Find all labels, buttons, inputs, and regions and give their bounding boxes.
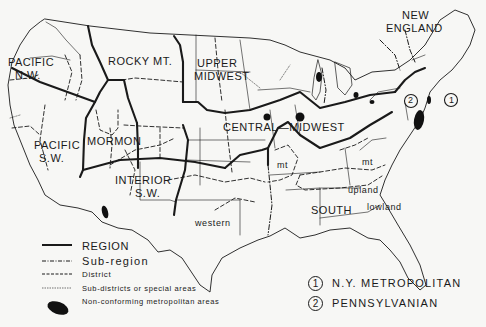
legend-label: District [82, 270, 111, 279]
regional-map: PACIFIC N.W. ROCKY MT. UPPER MIDWEST NEW… [0, 0, 486, 327]
number-circle-icon: 2 [308, 296, 323, 311]
legend-label: Sub-districts or special areas [82, 284, 196, 293]
label-pacific-nw: PACIFIC N.W. [8, 57, 54, 81]
label-dash: — [278, 121, 290, 133]
label-line: PACIFIC [34, 140, 80, 151]
metro-legend-item-1: 1 N.Y. METROPOLITAN [308, 273, 461, 293]
label-interior-sw: INTERIOR S.W. [115, 175, 172, 199]
metro-legend: 1 N.Y. METROPOLITAN 2 PENNSYLVANIAN [308, 273, 461, 313]
label-upper-midwest: UPPER MIDWEST [194, 58, 249, 82]
label-lowland: lowland [367, 203, 402, 212]
legend-item-sub-districts: Sub-districts or special areas [82, 284, 196, 293]
label-south: SOUTH [311, 205, 352, 216]
legend-label: Sub-region [82, 255, 149, 267]
label-new-england: NEW ENGLAND [386, 10, 443, 34]
label-line: INTERIOR [115, 175, 172, 186]
metro-label: PENNSYLVANIAN [332, 297, 438, 309]
label-line: S.W. [135, 188, 172, 199]
legend-item-region: REGION [82, 240, 129, 252]
label-mt-east: mt [362, 158, 373, 167]
metro-label: N.Y. METROPOLITAN [332, 277, 461, 289]
label-mt-west: mt [277, 161, 288, 170]
label-line: ENGLAND [386, 23, 443, 34]
label-part: MIDWEST [289, 121, 344, 133]
label-pacific-sw: PACIFIC S.W. [34, 140, 80, 164]
label-line: N.W. [15, 70, 54, 81]
label-central-midwest: CENTRAL—MIDWEST [223, 122, 345, 133]
legend-label: REGION [82, 240, 129, 252]
metro-legend-item-2: 2 PENNSYLVANIAN [308, 293, 461, 313]
marker-number-2: 2 [408, 96, 414, 105]
marker-number-1: 1 [449, 96, 455, 105]
label-line: S.W. [39, 153, 80, 164]
legend-label: Non-conforming metropolitan areas [82, 297, 219, 306]
label-line: UPPER [197, 58, 249, 69]
label-upland: upland [348, 186, 379, 195]
legend-item-district: District [82, 270, 111, 279]
number-circle-icon: 1 [308, 276, 323, 291]
label-mormon: MORMON [87, 136, 141, 147]
label-line: NEW [402, 10, 443, 21]
label-line: MIDWEST [194, 71, 249, 82]
legend-item-sub-region: Sub-region [82, 255, 149, 267]
label-rocky-mt: ROCKY MT. [108, 56, 172, 67]
label-line: PACIFIC [8, 57, 54, 68]
label-part: CENTRAL [223, 121, 278, 133]
legend-item-metro-areas: Non-conforming metropolitan areas [82, 298, 242, 307]
label-western: western [195, 219, 231, 228]
